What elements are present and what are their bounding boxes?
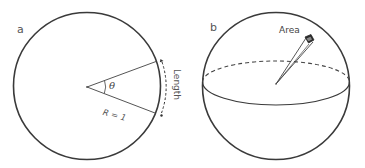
sphere-diagram — [0, 0, 365, 168]
equator-back-dashed — [203, 61, 350, 82]
figure: a θ R = 1 Length b Area — [0, 0, 365, 168]
solid-angle-cone — [276, 35, 314, 85]
area-label: Area — [279, 26, 300, 35]
sphere-outline — [203, 13, 350, 160]
panel-label-b: b — [210, 22, 217, 33]
sphere-center-point — [275, 83, 277, 85]
equator-front-solid — [203, 82, 350, 105]
